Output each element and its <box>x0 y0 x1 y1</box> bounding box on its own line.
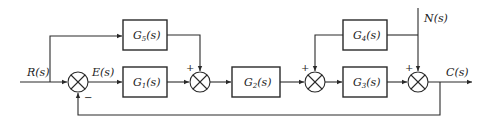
g4-output-line <box>315 35 343 71</box>
output-label: C(s) <box>446 66 469 79</box>
block-g5: G5(s) <box>123 20 167 50</box>
svg-text:G1(s): G1(s) <box>133 76 161 90</box>
sum2-plus-sign: + <box>186 62 194 73</box>
svg-text:G4(s): G4(s) <box>353 29 381 43</box>
input-label: R(s) <box>26 66 50 79</box>
summing-junction-4 <box>408 72 428 92</box>
svg-text:G5(s): G5(s) <box>133 29 161 43</box>
error-label: E(s) <box>91 66 114 79</box>
feedback-sign: − <box>84 92 92 103</box>
summing-junction-3 <box>305 72 325 92</box>
block-g3: G3(s) <box>343 67 387 97</box>
summing-junction-1 <box>68 72 88 92</box>
disturbance-label: N(s) <box>423 12 448 25</box>
sum4-plus-sign: + <box>405 62 413 73</box>
g5-output-line <box>167 35 200 71</box>
block-diagram: R(s) − E(s) G5(s) G1(s) + <box>0 0 481 121</box>
block-g4: G4(s) <box>343 20 387 50</box>
sum3-plus-sign: + <box>301 62 309 73</box>
block-g1: G1(s) <box>123 67 167 97</box>
svg-text:G3(s): G3(s) <box>353 76 381 90</box>
block-g2: G2(s) <box>232 67 280 97</box>
summing-junction-2 <box>190 72 210 92</box>
svg-text:G2(s): G2(s) <box>244 76 272 90</box>
